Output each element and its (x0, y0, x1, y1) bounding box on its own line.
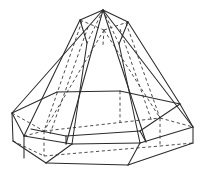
prism-ledge-line-center (66, 131, 140, 136)
pyramid-hidden-ridge-rear-right (126, 23, 160, 118)
prism-top-edge-center-rear (57, 91, 120, 92)
top-hex-hidden-rear-edge-a (80, 20, 104, 30)
prism-vertical-left-far (12, 113, 13, 141)
prism-top-edge-right (180, 104, 193, 127)
prism-top-edge-right-rear (120, 91, 180, 104)
pyramid-ridge-to-left-corner-parallel (24, 20, 80, 136)
top-hex-front-edge-left-upper (80, 10, 103, 20)
pyramid-ridge-to-left-corner (12, 10, 103, 113)
pyramid-ridge-to-right-corner-parallel (128, 22, 180, 104)
pyramid-ridge-front-left-inner (66, 10, 103, 144)
prism-top-edge-left-rear (12, 92, 57, 113)
wireframe-solid-drawing (0, 0, 206, 183)
prism-hidden-top-rear-edge-right (160, 118, 193, 127)
pyramid-ridge-to-right-corner (103, 10, 193, 127)
figure-canvas (0, 0, 206, 183)
